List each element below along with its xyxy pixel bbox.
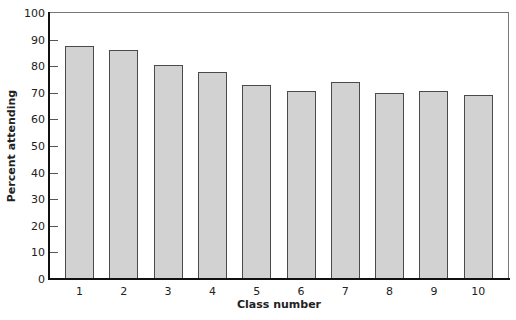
x-tick-label: 6: [298, 285, 305, 298]
bar-class-7: [331, 82, 360, 279]
y-tick-label: 90: [31, 33, 45, 46]
x-tick-label: 3: [165, 285, 172, 298]
y-tick: [50, 93, 58, 94]
y-axis-line: [48, 12, 50, 280]
bar-chart: 0102030405060708090100 12345678910 Class…: [0, 0, 516, 320]
bar-class-1: [65, 46, 94, 279]
y-tick-label: 40: [31, 166, 45, 179]
bar-class-2: [109, 50, 138, 279]
y-tick-label: 100: [24, 7, 45, 20]
y-tick: [50, 40, 58, 41]
x-tick-label: 9: [430, 285, 437, 298]
y-tick: [50, 66, 58, 67]
x-tick-label: 1: [76, 285, 83, 298]
x-axis-title: Class number: [237, 298, 321, 311]
y-tick: [50, 199, 58, 200]
bar-class-3: [154, 65, 183, 279]
x-tick-label: 5: [253, 285, 260, 298]
bar-class-5: [242, 85, 271, 279]
bar-class-9: [419, 91, 448, 279]
y-tick-label: 10: [31, 246, 45, 259]
y-tick-label: 20: [31, 219, 45, 232]
y-tick: [50, 146, 58, 147]
y-tick-label: 0: [38, 273, 45, 286]
x-axis-line: [48, 278, 510, 280]
x-tick-label: 7: [342, 285, 349, 298]
x-tick-label: 4: [209, 285, 216, 298]
y-tick-label: 50: [31, 140, 45, 153]
x-tick-label: 10: [471, 285, 485, 298]
y-tick-label: 80: [31, 60, 45, 73]
y-tick-label: 30: [31, 193, 45, 206]
x-tick-label: 2: [120, 285, 127, 298]
bar-class-10: [464, 95, 493, 279]
y-tick: [50, 226, 58, 227]
y-tick-label: 60: [31, 113, 45, 126]
y-tick-label: 70: [31, 86, 45, 99]
bar-class-8: [375, 93, 404, 279]
y-tick: [50, 252, 58, 253]
y-tick: [50, 119, 58, 120]
x-tick-label: 8: [386, 285, 393, 298]
bar-class-4: [198, 72, 227, 279]
bar-class-6: [287, 91, 316, 279]
y-axis-title: Percent attending: [5, 90, 18, 202]
y-tick: [50, 173, 58, 174]
